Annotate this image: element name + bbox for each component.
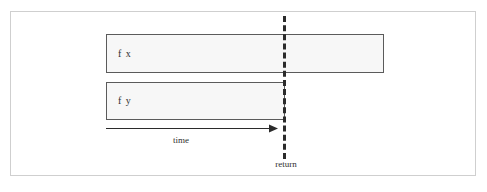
return-marker-line: [283, 16, 286, 159]
time-axis-arrow-icon: [106, 124, 278, 133]
figure-container: f x f y time return: [0, 0, 487, 192]
figure-frame: f x f y time return: [10, 11, 476, 176]
time-axis-label: time: [151, 136, 211, 145]
return-marker-label: return: [246, 160, 326, 169]
time-axis-arrow: [106, 124, 278, 133]
lifetime-bar-fx: f x: [106, 34, 384, 73]
lifetime-bar-fx-label: f x: [118, 49, 132, 59]
lifetime-bar-fy-label: f y: [118, 96, 132, 106]
lifetime-bar-fy: f y: [106, 82, 285, 120]
diagram-canvas: f x f y time return: [11, 12, 475, 175]
